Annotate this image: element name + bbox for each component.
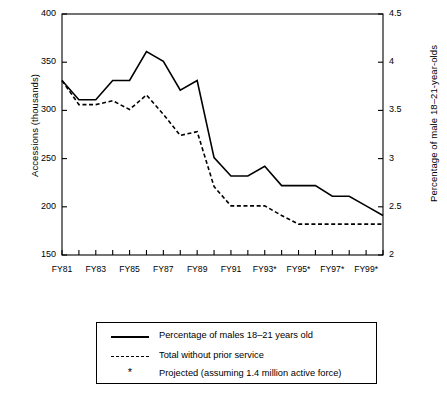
y-tick-label-left: 300 [22, 104, 56, 114]
y-tick-label-right: 4 [389, 56, 423, 66]
asterisk-icon: * [111, 366, 149, 378]
y-tick-label-right: 2.5 [389, 201, 423, 211]
legend-item-label: Percentage of males 18–21 years old [159, 330, 313, 340]
legend-item-percentage-males: Percentage of males 18–21 years old [97, 327, 376, 347]
x-tick-label: FY99* [343, 264, 389, 274]
y-tick-label-right: 3.5 [389, 104, 423, 114]
legend-item-total-without-prior-service: Total without prior service [97, 347, 376, 367]
y-axis-title-right: Percentage of male 18–21-year-olds [428, 9, 439, 239]
legend-item-label: Projected (assuming 1.4 million active f… [159, 368, 341, 378]
y-tick-label-left: 200 [22, 201, 56, 211]
y-tick-label-right: 4.5 [389, 8, 423, 18]
chart-legend: Percentage of males 18–21 years old Tota… [96, 322, 377, 384]
legend-item-projected: * Projected (assuming 1.4 million active… [97, 365, 376, 385]
legend-item-label: Total without prior service [159, 350, 264, 360]
y-tick-label-left: 400 [22, 8, 56, 18]
dashed-line-icon [111, 356, 149, 357]
y-tick-label-left: 250 [22, 153, 56, 163]
chart-figure: Accessions (thousands) Percentage of mal… [0, 0, 447, 408]
y-tick-label-left: 350 [22, 56, 56, 66]
solid-line-icon [111, 336, 149, 338]
chart-series-line [62, 52, 383, 216]
y-tick-label-left: 150 [22, 249, 56, 259]
chart-series-line [62, 81, 383, 225]
y-tick-label-right: 2 [389, 249, 423, 259]
y-tick-label-right: 3 [389, 153, 423, 163]
